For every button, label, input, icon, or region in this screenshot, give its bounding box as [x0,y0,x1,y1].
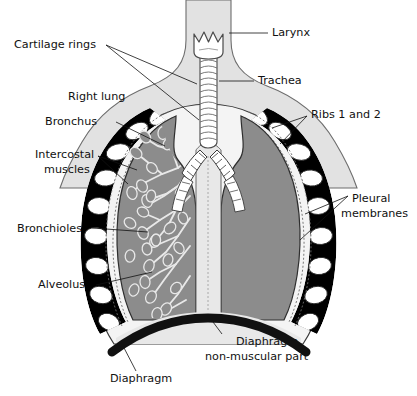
label-diaphragm-nonmuscular-line2: non-muscular part [205,350,309,363]
label-intercostal-muscles-line1: Intercostal [35,148,94,161]
label-bronchus: Bronchus [45,115,97,128]
label-diaphragm: Diaphragm [110,372,172,385]
label-bronchioles: Bronchioles [17,222,82,235]
label-right-lung: Right lung [68,90,125,103]
alveolus-sac [139,275,150,289]
label-larynx: Larynx [272,26,310,39]
label-intercostal-muscles-line2: muscles [44,163,90,176]
label-ribs-1-and-2: Ribs 1 and 2 [311,108,381,121]
label-pleural-membranes-line1: Pleural [352,192,390,205]
mediastinum [196,142,221,320]
alveolus-sac [125,249,136,262]
label-alveolus: Alveolus [38,278,85,291]
rib-cross-section [87,197,111,215]
trachea [200,56,217,148]
diagram-canvas: Cartilage rings Larynx Trachea Right lun… [0,0,417,396]
label-cartilage-rings: Cartilage rings [14,38,96,51]
label-diaphragm-nonmuscular-line1: Diaphragm [236,335,298,348]
respiratory-system-figure: Cartilage rings Larynx Trachea Right lun… [0,0,417,396]
label-trachea: Trachea [257,74,302,87]
label-pleural-membranes-line2: membranes [341,207,408,220]
alveolus-sac [151,234,160,246]
mediastinum-body [196,142,221,320]
